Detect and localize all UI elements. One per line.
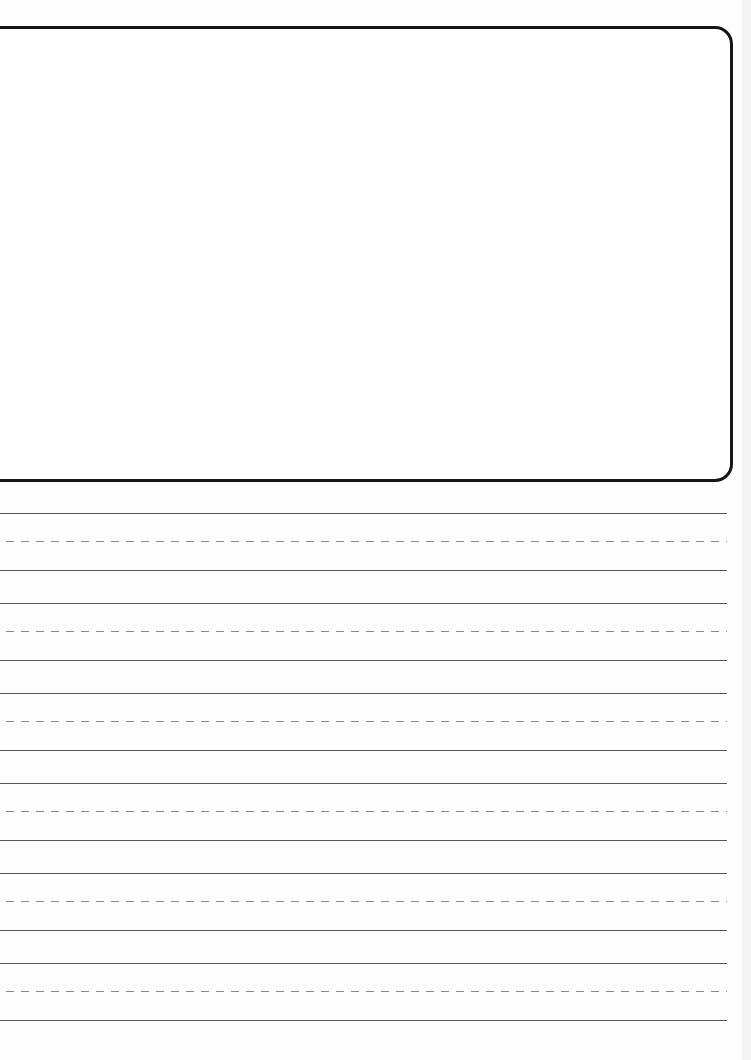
writing-line-2-baseline bbox=[0, 660, 727, 661]
writing-line-2-midline bbox=[0, 631, 727, 632]
writing-line-1-baseline bbox=[0, 570, 727, 571]
writing-line-1-top bbox=[0, 513, 727, 514]
writing-line-6-top bbox=[0, 963, 727, 964]
writing-line-5-baseline bbox=[0, 930, 727, 931]
writing-line-3-top bbox=[0, 693, 727, 694]
writing-line-4-baseline bbox=[0, 840, 727, 841]
writing-line-5-top bbox=[0, 873, 727, 874]
writing-lines-area[interactable] bbox=[0, 0, 751, 1060]
writing-line-4-midline bbox=[0, 811, 727, 812]
writing-line-6-baseline bbox=[0, 1020, 727, 1021]
writing-line-3-midline bbox=[0, 721, 727, 722]
writing-line-2-top bbox=[0, 603, 727, 604]
writing-line-6-midline bbox=[0, 991, 727, 992]
writing-line-1-midline bbox=[0, 541, 727, 542]
writing-line-5-midline bbox=[0, 901, 727, 902]
writing-line-3-baseline bbox=[0, 750, 727, 751]
worksheet-page bbox=[0, 0, 751, 1060]
writing-line-4-top bbox=[0, 783, 727, 784]
